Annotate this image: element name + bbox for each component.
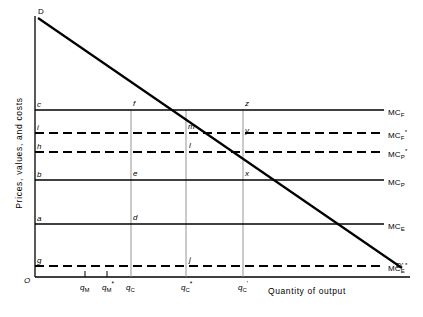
point-label-m: m [188,123,195,131]
curve-label-mcf-sub: F [401,112,405,118]
curve-label-mcfs-sub: F [401,135,405,141]
x-axis-title: Quantity of output [268,287,346,296]
x-tick-qms-sub: M [106,287,111,293]
curve-label-mces-text: MC [388,264,401,273]
x-tick-qms-sup: * [111,280,114,287]
curve-label-mcp: MCP [388,176,405,188]
curve-label-mce-sub: E [401,226,405,232]
x-tick-label-qc: qC [126,281,135,293]
point-label-x: x [245,170,249,178]
x-tick-qc-sub: C [130,287,134,293]
curve-label-mcp-text: MC [388,178,401,187]
x-tick-qcs-sup: * [190,280,193,287]
economics-diagram: O D D' Prices, values, and costs Quantit… [0,0,423,317]
point-label-l: l [189,142,191,150]
point-label-d: d [133,214,137,222]
origin-label: O [24,277,30,285]
curve-label-mcfs-text: MC [388,131,401,140]
demand-start-label: D [38,8,44,16]
curve-label-mcf: MCF [388,106,405,118]
curve-label-mce-text: MC [388,222,401,231]
diagram-canvas [0,0,423,317]
x-tick-qcp-sup: ' [247,280,248,287]
point-label-e: e [133,170,137,178]
curve-label-mcps-sup: * [405,148,408,154]
x-tick-label-qm: qM [80,281,89,293]
x-tick-qcp-sub: C [242,287,246,293]
demand-curve [38,18,402,268]
x-tick-qcs-sub: C [185,287,189,293]
y-axis-title: Prices, values, and costs [14,88,24,218]
intercept-label-mcf: c [37,101,41,109]
curve-label-mcps: MCP* [388,148,408,160]
curve-label-mcf-text: MC [388,108,401,117]
intercept-label-mcp: b [37,171,41,179]
curve-label-mce: MCE [388,220,405,232]
point-label-y: y [245,127,249,135]
curve-label-mces: MCE* [388,262,408,274]
intercept-label-mcfs: i [37,124,39,132]
curve-label-mcfs-sup: * [405,129,408,135]
intercept-label-mcps: h [37,143,41,151]
curve-label-mcp-sub: P [401,182,405,188]
curve-label-mcfs: MCF* [388,129,407,141]
x-tick-label-qcp: qC' [238,281,248,293]
curve-label-mces-sub: E [401,268,405,274]
x-tick-label-qms: qM* [102,281,114,293]
x-tick-qm-sub: M [84,287,89,293]
point-label-f: f [133,100,135,108]
curve-label-mcps-sub: P [401,154,405,160]
point-label-z: z [245,100,249,108]
intercept-label-mces: g [37,257,41,265]
curve-label-mces-sup: * [405,262,408,268]
intercept-label-mce: a [37,215,41,223]
x-tick-label-qcs: qC* [181,281,192,293]
curve-label-mcps-text: MC [388,150,401,159]
point-label-j: j [189,256,191,264]
